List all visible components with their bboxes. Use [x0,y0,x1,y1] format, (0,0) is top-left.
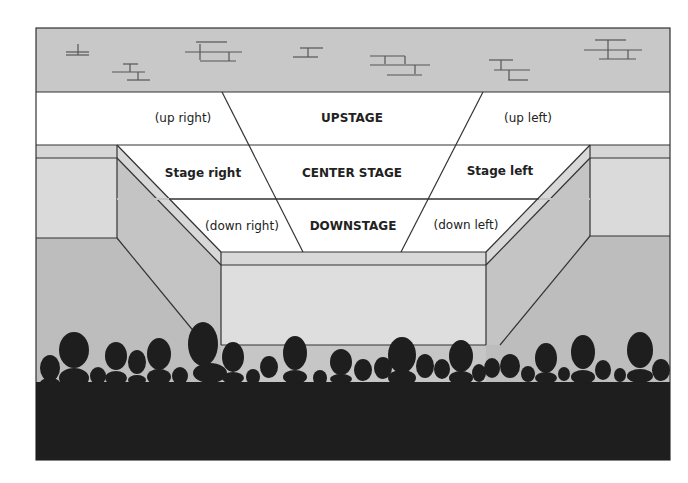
right-wing-top [590,145,670,158]
stage-directions-diagram: (up right) UPSTAGE (up left) Stage right… [0,0,688,483]
label-downstage: DOWNSTAGE [310,219,397,233]
label-stage-left: Stage left [467,164,534,178]
label-up-left: (up left) [504,111,552,125]
right-wing-face [590,158,670,236]
label-up-right: (up right) [155,111,212,125]
label-center-stage: CENTER STAGE [302,166,402,180]
label-upstage: UPSTAGE [321,111,383,125]
left-wing-top [36,145,117,158]
label-down-left: (down left) [434,218,499,232]
label-down-right: (down right) [205,219,279,233]
left-wing-face [36,158,117,238]
backdrop-wall [36,28,670,92]
stage-front-face [221,265,486,345]
label-stage-right: Stage right [165,166,242,180]
stage-front-lip [221,252,486,265]
